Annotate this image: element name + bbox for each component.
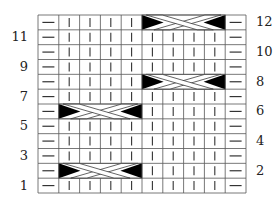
row-label-8: 8 bbox=[256, 75, 278, 89]
chart-grid bbox=[38, 15, 246, 193]
row-label-3: 3 bbox=[2, 149, 28, 163]
cable-cross-symbol bbox=[142, 15, 225, 30]
row-label-6: 6 bbox=[256, 104, 278, 118]
cable-cross-symbol bbox=[59, 104, 142, 119]
row-label-2: 2 bbox=[256, 164, 278, 178]
cable-cross-symbol bbox=[59, 163, 142, 178]
row-label-11: 11 bbox=[2, 30, 28, 44]
row-label-10: 10 bbox=[256, 45, 278, 59]
row-label-12: 12 bbox=[256, 15, 278, 29]
row-label-1: 1 bbox=[2, 179, 28, 193]
row-label-7: 7 bbox=[2, 90, 28, 104]
row-label-9: 9 bbox=[2, 60, 28, 74]
row-label-4: 4 bbox=[256, 134, 278, 148]
knitting-chart bbox=[0, 0, 278, 203]
cable-cross-symbol bbox=[142, 74, 225, 89]
row-label-5: 5 bbox=[2, 119, 28, 133]
